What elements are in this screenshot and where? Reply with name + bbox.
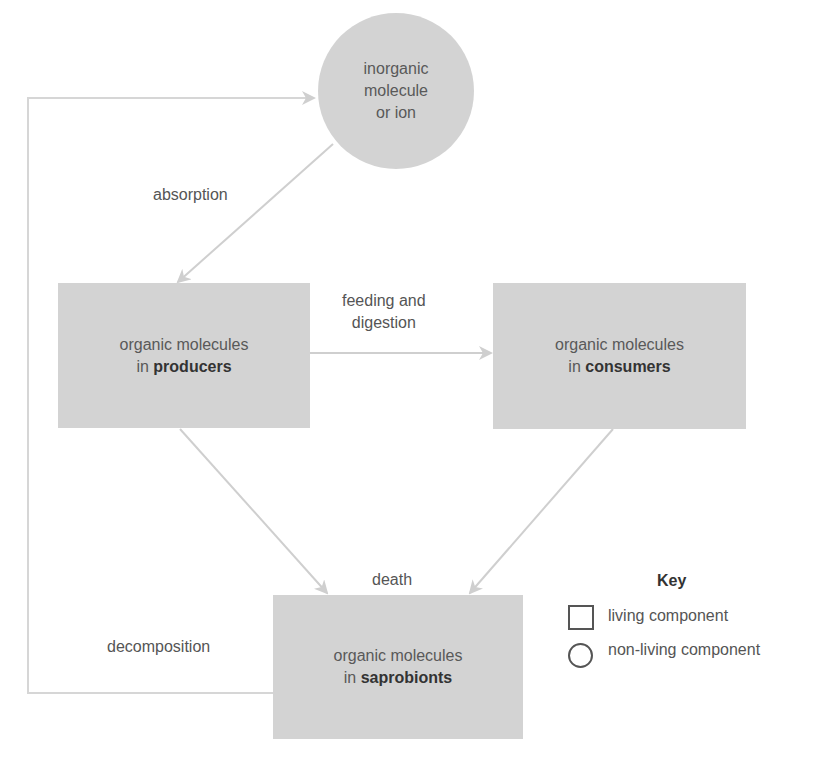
label-decomposition: decomposition	[107, 636, 210, 658]
key-label-living: living component	[608, 607, 728, 625]
node-consumers: organic molecules in consumers	[493, 283, 746, 429]
key-label-non-living: non-living component	[608, 641, 760, 659]
key-circle-icon	[568, 643, 593, 668]
key-title: Key	[657, 572, 686, 590]
node-consumers-line2: in consumers	[568, 356, 670, 378]
node-saprobionts-line1: organic molecules	[334, 645, 463, 667]
node-producers-line1: organic molecules	[120, 334, 249, 356]
key-square-icon	[568, 605, 594, 630]
node-producers: organic molecules in producers	[58, 283, 310, 428]
label-feeding-and-digestion: feeding and digestion	[342, 290, 426, 334]
node-saprobionts: organic molecules in saprobionts	[273, 595, 523, 739]
label-death: death	[372, 569, 412, 591]
node-inorganic-line2: molecule	[364, 80, 428, 102]
node-inorganic-line1: inorganic	[364, 58, 429, 80]
node-saprobionts-line2: in saprobionts	[344, 667, 452, 689]
node-producers-line2: in producers	[136, 356, 231, 378]
absorption-arrow	[178, 144, 333, 282]
label-absorption: absorption	[153, 184, 228, 206]
death-arrow-consumers	[470, 429, 613, 593]
node-consumers-line1: organic molecules	[555, 334, 684, 356]
node-inorganic-molecule: inorganic molecule or ion	[318, 13, 474, 169]
node-inorganic-line3: or ion	[376, 102, 416, 124]
death-arrow-producers	[180, 429, 327, 593]
